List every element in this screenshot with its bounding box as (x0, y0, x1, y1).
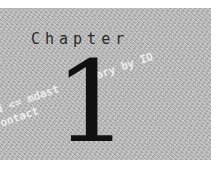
chapter-title-panel: Chapter d <= mdast ary by IO ontact 1 (0, 8, 211, 160)
chapter-number: 1 (54, 46, 129, 158)
